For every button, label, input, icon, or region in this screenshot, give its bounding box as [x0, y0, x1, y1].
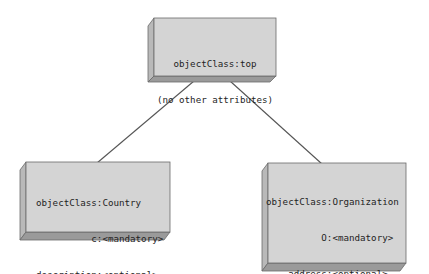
node-top: objectClass:top (no other attributes): [148, 18, 278, 84]
diagram-canvas: objectClass:top (no other attributes) ob…: [0, 0, 429, 274]
node-top-line: objectClass:top: [154, 58, 276, 70]
node-top-line: (no other attributes): [154, 94, 276, 106]
node-organization-line: address:<optional>: [266, 268, 399, 274]
node-country-line: c:<mandatory>: [36, 233, 163, 245]
node-country: objectClass:Country c:<mandatory> descri…: [20, 162, 172, 242]
node-organization: objectClass:Organization O:<mandatory> a…: [262, 163, 408, 273]
node-country-line: objectClass:Country: [36, 197, 163, 209]
node-organization-line: objectClass:Organization: [266, 196, 399, 208]
node-organization-line: O:<mandatory>: [266, 232, 399, 244]
node-country-line: description:<optional>: [36, 269, 163, 274]
